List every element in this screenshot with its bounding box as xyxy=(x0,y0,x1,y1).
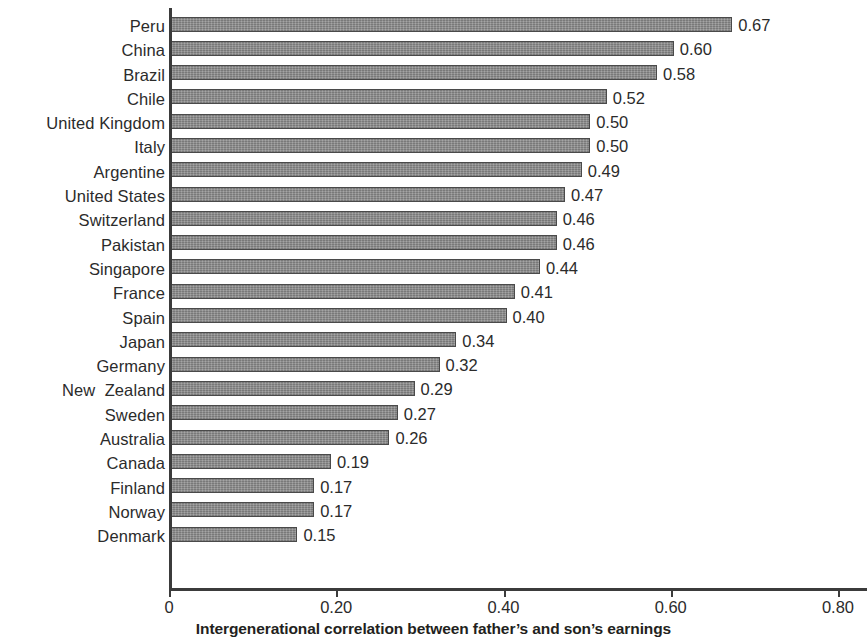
category-label: Finland xyxy=(0,476,165,500)
bar-row: 0.46 xyxy=(172,208,867,232)
x-axis-tick-label: 0.20 xyxy=(320,598,352,617)
bar-value-label: 0.27 xyxy=(404,402,436,426)
x-axis-line xyxy=(169,588,867,591)
category-label: United Kingdom xyxy=(0,111,165,135)
bar-row: 0.15 xyxy=(172,524,867,548)
bar-value-label: 0.34 xyxy=(462,329,494,353)
bar-value-label: 0.41 xyxy=(521,280,553,304)
category-label: Spain xyxy=(0,306,165,330)
category-label: Argentine xyxy=(0,160,165,184)
category-label: Italy xyxy=(0,135,165,159)
bar-value-label: 0.32 xyxy=(446,353,478,377)
bar xyxy=(172,332,456,347)
bar xyxy=(172,235,557,250)
bar-series: 0.670.600.580.520.500.500.490.470.460.46… xyxy=(172,14,867,549)
bar-value-label: 0.44 xyxy=(546,256,578,280)
bar xyxy=(172,65,657,80)
category-label: Pakistan xyxy=(0,233,165,257)
bar xyxy=(172,17,732,32)
category-axis-labels: PeruChinaBrazilChileUnited KingdomItalyA… xyxy=(0,14,165,549)
bar xyxy=(172,284,515,299)
bar-value-label: 0.52 xyxy=(613,86,645,110)
bar-value-label: 0.50 xyxy=(596,134,628,158)
category-label: Chile xyxy=(0,87,165,111)
x-axis-tick-label: 0.60 xyxy=(655,598,687,617)
bar-value-label: 0.40 xyxy=(513,305,545,329)
x-axis-tick xyxy=(838,588,840,597)
bar-chart: PeruChinaBrazilChileUnited KingdomItalyA… xyxy=(0,0,867,642)
category-label: Norway xyxy=(0,500,165,524)
category-label: New Zealand xyxy=(0,378,165,402)
category-label: Canada xyxy=(0,451,165,475)
category-label: Germany xyxy=(0,354,165,378)
bar-row: 0.41 xyxy=(172,281,867,305)
category-label: China xyxy=(0,38,165,62)
bar-row: 0.26 xyxy=(172,427,867,451)
bar-row: 0.34 xyxy=(172,330,867,354)
bar xyxy=(172,502,314,517)
bar-row: 0.58 xyxy=(172,63,867,87)
bar xyxy=(172,162,582,177)
bar-row: 0.50 xyxy=(172,135,867,159)
category-label: Japan xyxy=(0,330,165,354)
bar-row: 0.40 xyxy=(172,306,867,330)
x-axis-tick xyxy=(169,588,171,597)
bar xyxy=(172,114,590,129)
bar xyxy=(172,527,297,542)
bar-row: 0.60 xyxy=(172,38,867,62)
bar xyxy=(172,89,607,104)
bar xyxy=(172,405,398,420)
bar xyxy=(172,430,389,445)
bar-row: 0.17 xyxy=(172,476,867,500)
category-label: United States xyxy=(0,184,165,208)
bar-value-label: 0.47 xyxy=(571,183,603,207)
category-label: Australia xyxy=(0,427,165,451)
bar-value-label: 0.19 xyxy=(337,450,369,474)
bar xyxy=(172,381,415,396)
x-axis-tick-label: 0 xyxy=(164,598,173,617)
category-label: France xyxy=(0,281,165,305)
bar-row: 0.50 xyxy=(172,111,867,135)
x-axis-tick xyxy=(671,588,673,597)
bar xyxy=(172,138,590,153)
bar-value-label: 0.50 xyxy=(596,110,628,134)
bar-row: 0.17 xyxy=(172,500,867,524)
bar-row: 0.47 xyxy=(172,184,867,208)
bar-value-label: 0.49 xyxy=(588,159,620,183)
bar-row: 0.29 xyxy=(172,378,867,402)
x-axis-tick-label: 0.80 xyxy=(822,598,854,617)
bar-value-label: 0.15 xyxy=(303,523,335,547)
x-axis-title: Intergenerational correlation between fa… xyxy=(0,620,867,638)
category-label: Switzerland xyxy=(0,208,165,232)
bar xyxy=(172,41,674,56)
plot-area: 0.670.600.580.520.500.500.490.470.460.46… xyxy=(169,8,867,588)
bar-value-label: 0.17 xyxy=(320,475,352,499)
bar xyxy=(172,308,507,323)
x-axis-tick xyxy=(336,588,338,597)
category-label: Denmark xyxy=(0,524,165,548)
bar xyxy=(172,357,440,372)
bar xyxy=(172,187,565,202)
x-axis-tick-label: 0.40 xyxy=(487,598,519,617)
bar-row: 0.44 xyxy=(172,257,867,281)
bar xyxy=(172,211,557,226)
bar-row: 0.52 xyxy=(172,87,867,111)
bar-value-label: 0.67 xyxy=(738,13,770,37)
bar-row: 0.32 xyxy=(172,354,867,378)
bar-value-label: 0.60 xyxy=(680,37,712,61)
bar-row: 0.67 xyxy=(172,14,867,38)
bar xyxy=(172,454,331,469)
category-label: Singapore xyxy=(0,257,165,281)
bar-row: 0.27 xyxy=(172,403,867,427)
bar-row: 0.19 xyxy=(172,451,867,475)
bar-value-label: 0.26 xyxy=(395,426,427,450)
category-label: Peru xyxy=(0,14,165,38)
bar-row: 0.49 xyxy=(172,160,867,184)
bar-value-label: 0.46 xyxy=(563,207,595,231)
bar xyxy=(172,259,540,274)
category-label: Sweden xyxy=(0,403,165,427)
bar xyxy=(172,478,314,493)
bar-value-label: 0.46 xyxy=(563,232,595,256)
bar-value-label: 0.58 xyxy=(663,62,695,86)
bar-value-label: 0.29 xyxy=(421,377,453,401)
